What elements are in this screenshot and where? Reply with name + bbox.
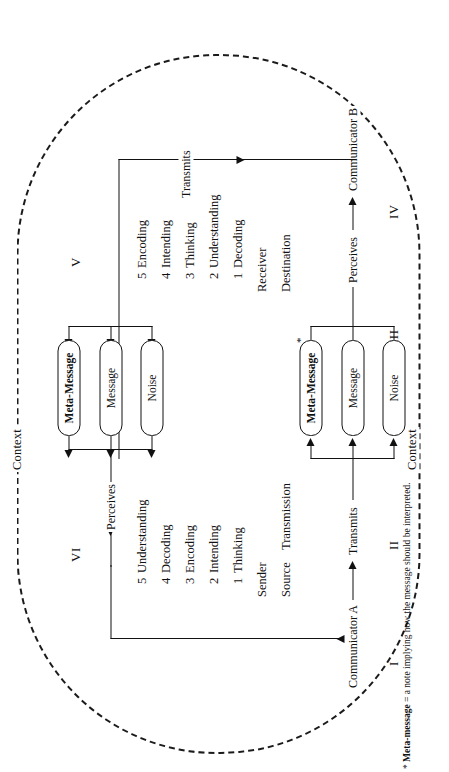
communicator-b-label: Communicator B [345, 106, 360, 193]
stage-label-iv: IV [385, 204, 401, 219]
receiver-step-2-num: 2 [206, 268, 221, 279]
arrowhead-transmits-bottom [236, 156, 244, 164]
sender-step-1: 1Thinking [230, 527, 245, 584]
arrowhead-in-meta-top [306, 438, 314, 446]
sender-step-4-num: 4 [158, 573, 173, 584]
arrowhead-out-meta-bottom [64, 450, 72, 458]
transmits-label-bottom: Transmits [178, 148, 193, 200]
transmission-heading: Transmission [278, 483, 293, 550]
channel-bottom-meta-message: Meta-Message [57, 340, 80, 436]
footnote: * Meta-message = a note implying how the… [402, 553, 412, 769]
sender-step-5-label: Understanding [134, 499, 148, 573]
fanin-arm-message-bottom [110, 326, 111, 340]
channel-bottom-meta-message-label: Meta-Message [63, 353, 75, 424]
footnote-text: = a note implying how the message should… [402, 482, 412, 702]
receiver-step-2: 2Understanding [206, 194, 221, 279]
receiver-step-1-label: Decoding [230, 219, 244, 268]
perceives-label-top: Perceives [345, 235, 360, 285]
arrowhead-return-to-a [336, 635, 344, 643]
fanout-arm-meta-top [310, 326, 311, 340]
stage-label-i: I [385, 661, 401, 666]
fanin-arm-meta-bottom [68, 326, 69, 340]
channel-bottom-message-label: Message [105, 368, 117, 408]
sender-step-4: 4Decoding [158, 524, 173, 584]
sender-role: Sender [254, 562, 269, 597]
channel-bottom-noise-label: Noise [146, 375, 158, 402]
sender-step-2: 2Intending [206, 525, 221, 584]
sender-step-2-num: 2 [206, 573, 221, 584]
footnote-term: Meta-message [402, 704, 412, 762]
sender-step-5-num: 5 [134, 573, 149, 584]
fanin-arm-noise-top [393, 445, 394, 459]
sender-step-3-num: 3 [182, 573, 197, 584]
sender-step-3: 3Encoding [182, 525, 197, 584]
channel-bottom-noise: Noise [140, 340, 163, 436]
arrowhead-perceives-top [348, 197, 356, 205]
receiver-step-2-label: Understanding [206, 194, 220, 268]
fanout-arm-message-top [352, 326, 353, 340]
stage-label-ii: II [385, 540, 401, 550]
fanin-arm-message-top [352, 445, 353, 459]
perceives-label-bottom: Perceives [103, 482, 118, 532]
transmits-label-top: Transmits [345, 505, 360, 557]
sender-step-5: 5Understanding [134, 499, 149, 584]
receiver-step-3: 3Thinking [182, 222, 197, 279]
line-channel-to-perceives-top [352, 287, 353, 327]
channel-top-noise: Noise [382, 340, 405, 436]
receiver-step-5-num: 5 [134, 268, 149, 279]
arrowhead-in-noise-top [389, 438, 397, 446]
fanout-arm-noise-top [393, 326, 394, 340]
sender-step-4-label: Decoding [158, 524, 172, 573]
channel-top-noise-label: Noise [388, 375, 400, 402]
context-label-bottom: Context [404, 427, 419, 472]
destination-heading: Destination [278, 234, 293, 292]
channel-top-message-label: Message [347, 368, 359, 408]
meta-message-asterisk: * [294, 338, 305, 344]
line-perceives-to-b [352, 204, 353, 230]
arrowhead-out-noise-bottom [147, 450, 155, 458]
receiver-role: Receiver [254, 248, 269, 292]
return-rail-bottom [110, 565, 111, 639]
channel-bottom-message: Message [99, 340, 122, 436]
return-riser-right [118, 159, 352, 160]
receiver-step-4-label: Intending [158, 220, 172, 268]
receiver-step-5-label: Encoding [134, 220, 148, 268]
sender-step-1-label: Thinking [230, 527, 244, 573]
line-transmits-to-channel-top [352, 458, 353, 500]
receiver-step-3-num: 3 [182, 268, 197, 279]
stage-label-v: V [67, 257, 83, 267]
channel-top-message: Message [341, 340, 364, 436]
receiver-step-4-num: 4 [158, 268, 173, 279]
fanin-arm-noise-bottom [151, 326, 152, 340]
sender-step-1-num: 1 [230, 573, 245, 584]
rotated-diagram: Context Context I II III IV V VI Communi… [0, 0, 449, 772]
channel-top-meta-message: Meta-Message [299, 340, 322, 436]
footnote-marker: * [402, 764, 412, 769]
line-a-to-transmits [352, 568, 353, 600]
communicator-a-label: Communicator A [345, 603, 360, 690]
arrowhead-in-message-top [348, 438, 356, 446]
stage-label-vi: VI [67, 547, 83, 562]
receiver-step-1: 1Decoding [230, 219, 245, 279]
arrowhead-transmits-top [348, 561, 356, 569]
receiver-step-4: 4Intending [158, 220, 173, 279]
sender-step-2-label: Intending [206, 525, 220, 573]
channel-top-meta-message-label: Meta-Message [305, 353, 317, 424]
context-label-top: Context [9, 427, 24, 472]
receiver-step-3-label: Thinking [182, 222, 196, 268]
fanin-arm-meta-top [310, 445, 311, 459]
return-riser-left [110, 638, 342, 639]
figure-canvas: Context Context I II III IV V VI Communi… [0, 0, 449, 772]
source-heading: Source [278, 562, 293, 597]
receiver-step-1-num: 1 [230, 268, 245, 279]
receiver-step-5: 5Encoding [134, 220, 149, 279]
sender-step-3-label: Encoding [182, 525, 196, 573]
